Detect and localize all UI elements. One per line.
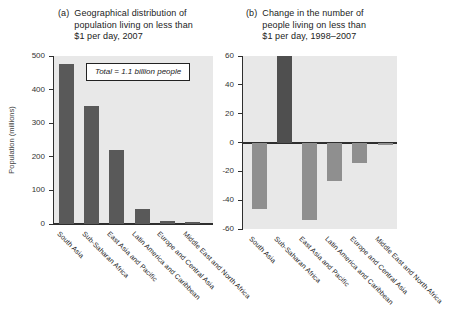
poverty-figure: (a) Geographical distribution of populat…: [0, 0, 462, 311]
bar-east-asia-and-pacific: [109, 150, 124, 224]
y-tick-label: 20: [207, 109, 234, 119]
y-tick-mark: [238, 200, 243, 201]
y-tick-label: -40: [207, 195, 234, 205]
chart-b-plot: 6040200-20-40-60South AsiaSub-Saharan Af…: [243, 56, 397, 229]
y-tick-label: 100: [18, 185, 45, 195]
chart-b-title-text: Change in the number of people living on…: [262, 8, 366, 43]
y-tick-mark: [49, 190, 54, 191]
x-category-label-sub-saharan-africa: Sub-Saharan Africa: [273, 235, 322, 284]
y-axis-line: [53, 56, 54, 224]
y-tick-label: 400: [18, 85, 45, 95]
y-tick-mark: [238, 56, 243, 57]
bar-south-asia: [252, 143, 267, 209]
y-tick-mark: [49, 123, 54, 124]
chart-a-title-text: Geographical distribution of population …: [74, 8, 193, 43]
y-tick-label: 300: [18, 118, 45, 128]
bar-sub-saharan-africa: [277, 56, 292, 143]
y-tick-mark: [238, 113, 243, 114]
y-tick-label: -60: [207, 224, 234, 234]
y-tick-mark: [49, 156, 54, 157]
total-annotation-box: Total = 1.1 billion people: [86, 63, 190, 81]
y-tick-label: -20: [207, 166, 234, 176]
x-category-label-east-asia-and-pacific: East Asia and Pacific: [298, 235, 351, 288]
y-tick-label: 40: [207, 80, 234, 90]
bar-europe-and-central-asia: [352, 143, 367, 163]
y-tick-mark: [238, 84, 243, 85]
bar-europe-and-central-asia: [160, 221, 175, 224]
x-category-label-east-asia-and-pacific: East Asia and Pacific: [106, 230, 159, 283]
x-category-label-sub-saharan-africa: Sub-Saharan Africa: [81, 230, 130, 279]
y-tick-label: 500: [18, 51, 45, 61]
bar-middle-east-and-north-africa: [378, 143, 393, 146]
y-tick-mark: [238, 229, 243, 230]
y-tick-mark: [238, 171, 243, 172]
bar-south-asia: [59, 64, 74, 224]
bar-middle-east-and-north-africa: [185, 222, 200, 224]
chart-a-title: (a) Geographical distribution of populat…: [58, 8, 193, 43]
bar-latin-america-and-caribbean: [327, 143, 342, 182]
y-tick-label: 0: [18, 219, 45, 229]
chart-a-label: (a): [58, 8, 69, 43]
y-tick-mark: [49, 89, 54, 90]
bar-east-asia-and-pacific: [302, 143, 317, 221]
chart-b-title: (b) Change in the number of people livin…: [246, 8, 366, 43]
y-tick-mark: [49, 56, 54, 57]
chart-a-y-axis-title: Population (millions): [7, 106, 16, 174]
y-tick-label: 200: [18, 152, 45, 162]
chart-b-label: (b): [246, 8, 257, 43]
bar-sub-saharan-africa: [84, 106, 99, 224]
y-tick-label: 0: [207, 138, 234, 148]
chart-a-plot: Total = 1.1 billion people 5004003002001…: [54, 56, 213, 224]
y-tick-label: 60: [207, 51, 234, 61]
bar-latin-america-and-caribbean: [135, 209, 150, 224]
